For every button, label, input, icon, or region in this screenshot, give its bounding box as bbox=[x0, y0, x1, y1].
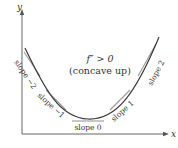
x-axis-label: x bbox=[171, 129, 176, 139]
second-derivative-condition: f″ > 0 bbox=[85, 53, 113, 64]
concave-up-caption: (concave up) bbox=[69, 65, 131, 76]
label-slope-0: slope 0 bbox=[74, 123, 101, 132]
label-slope-neg2: slope −2 bbox=[12, 58, 38, 91]
concave-up-curve bbox=[25, 37, 159, 119]
label-slope-2: slope 2 bbox=[146, 59, 167, 87]
y-axis-label: y bbox=[16, 2, 23, 12]
x-axis-arrow-icon bbox=[163, 132, 169, 136]
concavity-diagram: y x f″ > 0 (concave up) slope −2 slope −… bbox=[0, 0, 178, 148]
